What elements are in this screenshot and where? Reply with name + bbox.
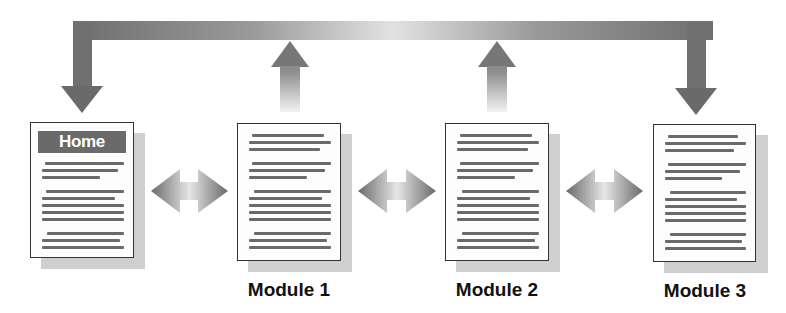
text-line <box>457 141 539 144</box>
text-line <box>42 169 118 172</box>
text-line <box>668 135 738 138</box>
module-1-label: Module 1 <box>219 279 359 301</box>
text-line <box>665 198 737 201</box>
text-line <box>42 197 115 200</box>
text-line <box>249 211 331 214</box>
module-1-document <box>237 123 341 261</box>
module-3-document <box>653 124 756 262</box>
text-line <box>42 204 124 207</box>
text-line <box>252 162 331 165</box>
text-line <box>665 142 746 145</box>
text-line <box>665 240 742 243</box>
text-line <box>46 190 124 193</box>
text-line <box>462 232 539 235</box>
text-line <box>252 134 324 137</box>
bidirectional-arrow-module1-module2 <box>358 169 436 213</box>
text-line <box>249 204 331 207</box>
text-line <box>249 148 320 151</box>
text-line <box>462 190 539 193</box>
text-line <box>457 239 535 242</box>
text-line <box>457 204 539 207</box>
module-2-up-arrow <box>478 41 516 112</box>
bidirectional-arrow-module2-module3 <box>566 169 643 213</box>
text-line <box>457 211 539 214</box>
text-line <box>668 163 746 166</box>
text-line <box>457 218 539 221</box>
text-line <box>249 169 325 172</box>
module-2-label: Module 2 <box>427 279 567 301</box>
home-page-document: Home Page <box>30 122 134 258</box>
text-line <box>249 141 331 144</box>
text-line <box>665 170 740 173</box>
home-page-banner: Home Page <box>38 131 126 153</box>
text-line <box>460 134 532 137</box>
text-line <box>457 246 539 249</box>
text-line <box>665 149 734 152</box>
text-line <box>45 162 124 165</box>
text-line <box>42 211 124 214</box>
top-loop-arrow <box>61 21 717 115</box>
text-line <box>665 212 746 215</box>
text-line <box>665 247 746 250</box>
text-line <box>42 239 120 242</box>
text-line <box>42 218 124 221</box>
text-line <box>47 232 124 235</box>
text-line <box>460 162 539 165</box>
text-line <box>665 177 722 180</box>
text-line <box>457 169 533 172</box>
text-line <box>457 148 528 151</box>
text-line <box>249 246 331 249</box>
text-line <box>457 197 530 200</box>
text-line <box>42 246 124 249</box>
text-line <box>665 205 746 208</box>
text-line <box>249 197 322 200</box>
module-3-label: Module 3 <box>635 280 775 302</box>
module-2-document <box>445 123 549 261</box>
module-1-up-arrow <box>271 41 309 112</box>
text-line <box>249 239 327 242</box>
text-line <box>670 191 746 194</box>
text-line <box>665 219 746 222</box>
text-line <box>457 176 515 179</box>
text-line <box>249 176 307 179</box>
text-line <box>254 232 331 235</box>
text-line <box>254 190 331 193</box>
text-line <box>249 218 331 221</box>
text-line <box>670 233 746 236</box>
text-line <box>42 176 100 179</box>
bidirectional-arrow-home-module1 <box>151 169 228 213</box>
